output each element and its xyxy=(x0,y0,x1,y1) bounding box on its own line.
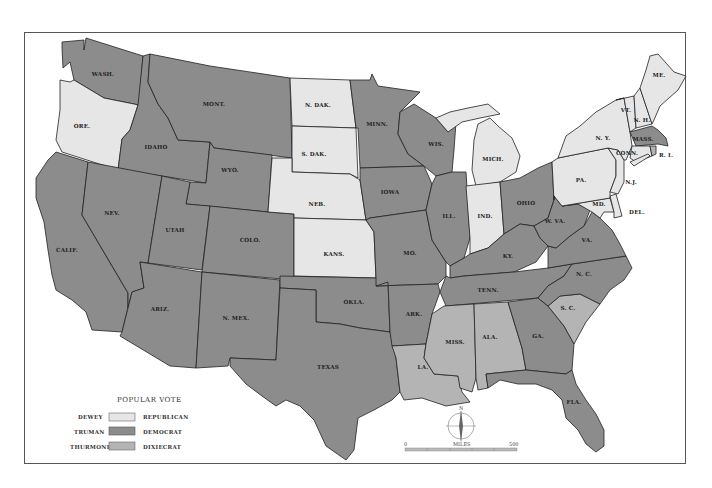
legend-party-dixiecrat: DIXIECRAT xyxy=(143,444,182,450)
label-calif: CALIF. xyxy=(56,247,78,253)
scale-unit-label: MILES xyxy=(453,441,471,447)
label-sc: S. C. xyxy=(560,305,575,311)
label-ny: N. Y. xyxy=(596,135,611,141)
legend-party-democrat: DEMOCRAT xyxy=(143,429,183,435)
label-ndak: N. DAK. xyxy=(305,102,331,108)
label-texas: TEXAS xyxy=(317,364,339,370)
label-la: LA. xyxy=(418,364,429,370)
label-wis: WIS. xyxy=(427,141,444,147)
label-utah: UTAH xyxy=(165,227,185,233)
label-mich: MICH. xyxy=(482,156,504,162)
us-election-map-1948: WASH. ORE. CALIF. IDAHO NEV. MONT. WYO. … xyxy=(0,0,712,488)
state-colorado xyxy=(202,206,294,280)
label-ariz: ARIZ. xyxy=(150,306,170,312)
state-florida xyxy=(486,370,604,452)
scale-bar: 0 MILES 500 xyxy=(404,441,519,451)
label-ala: ALA. xyxy=(481,334,497,340)
legend: POPULAR VOTE DEWEY REPUBLICAN TRUMAN DEM… xyxy=(70,396,188,450)
label-okla: OKLA. xyxy=(344,299,365,305)
label-ark: ARK. xyxy=(405,311,423,317)
legend-swatch-republican xyxy=(109,413,135,421)
legend-candidate-thurmond: THURMOND xyxy=(70,444,112,450)
label-pa: PA. xyxy=(576,177,587,183)
legend-party-republican: REPUBLICAN xyxy=(143,414,188,420)
label-md: MD. xyxy=(592,201,605,207)
compass-north-label: N xyxy=(459,405,464,411)
label-me: ME. xyxy=(652,72,665,78)
label-wyo: WYO. xyxy=(220,167,239,173)
label-ohio: OHIO xyxy=(517,200,535,206)
label-colo: COLO. xyxy=(240,237,261,243)
label-nh: N. H. xyxy=(634,117,651,123)
legend-swatch-dixiecrat xyxy=(109,442,135,450)
label-ga: GA. xyxy=(532,333,544,339)
label-mont: MONT. xyxy=(203,101,226,107)
label-idaho: IDAHO xyxy=(145,144,168,150)
label-wva: W. VA. xyxy=(544,218,566,224)
scale-start-label: 0 xyxy=(404,441,407,447)
legend-swatch-democrat xyxy=(109,427,135,435)
state-michigan xyxy=(472,118,520,186)
label-mo: MO. xyxy=(403,250,416,256)
label-va: VA. xyxy=(581,237,593,243)
label-fla: FLA. xyxy=(567,399,582,405)
label-nj: N.J. xyxy=(625,179,637,186)
label-ind: IND. xyxy=(477,213,492,219)
scale-end-label: 500 xyxy=(509,441,519,447)
label-ill: ILL. xyxy=(442,213,455,219)
label-nmex: N. MEX. xyxy=(223,315,250,321)
legend-candidate-truman: TRUMAN xyxy=(74,429,105,435)
label-neb: NEB. xyxy=(309,201,326,207)
label-ri: R. I. xyxy=(659,152,673,158)
legend-title: POPULAR VOTE xyxy=(117,396,182,404)
state-kansas xyxy=(294,218,376,278)
label-sdak: S. DAK. xyxy=(301,151,326,157)
label-ky: KY. xyxy=(503,253,514,259)
label-miss: MISS. xyxy=(445,339,465,345)
legend-candidate-dewey: DEWEY xyxy=(78,414,103,420)
label-nc: N. C. xyxy=(576,271,592,277)
label-conn: CONN. xyxy=(616,150,638,156)
compass-rose-icon: N xyxy=(446,405,476,442)
label-mass: MASS. xyxy=(632,136,653,142)
label-tenn: TENN. xyxy=(477,287,498,293)
label-del: DEL. xyxy=(629,209,645,215)
label-iowa: IOWA xyxy=(381,189,400,195)
label-ore: ORE. xyxy=(74,123,91,129)
label-wash: WASH. xyxy=(91,71,115,77)
label-vt: VT. xyxy=(620,107,631,113)
label-minn: MINN. xyxy=(366,121,388,127)
label-kans: KANS. xyxy=(324,251,345,257)
label-nev: NEV. xyxy=(104,210,120,216)
